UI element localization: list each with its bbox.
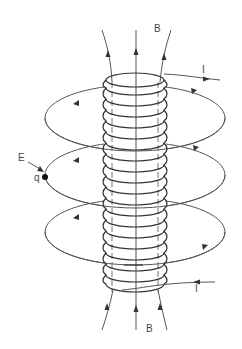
arrow-left-icon <box>73 100 79 106</box>
arrow-right-icon <box>202 244 208 250</box>
label-charge-q: q <box>34 172 40 183</box>
arrow-right-icon <box>193 145 199 151</box>
solenoid-diagram: B I E q I B <box>0 0 242 349</box>
arrow-left-icon <box>73 157 79 163</box>
arrow-right-icon <box>203 77 210 82</box>
arrow-up-icon <box>134 305 139 312</box>
arrow-up-icon <box>134 48 139 55</box>
label-b-top: B <box>154 23 161 34</box>
arrow-up-icon <box>106 50 111 57</box>
charge-dot <box>42 174 48 180</box>
label-i-bottom: I <box>195 283 198 294</box>
label-b-bottom: B <box>146 323 153 334</box>
current-lead-top <box>164 74 220 80</box>
label-e-field: E <box>18 152 25 163</box>
arrow-left-icon <box>73 214 79 220</box>
label-i-top: I <box>202 64 205 75</box>
arrow-up-icon <box>162 53 167 60</box>
